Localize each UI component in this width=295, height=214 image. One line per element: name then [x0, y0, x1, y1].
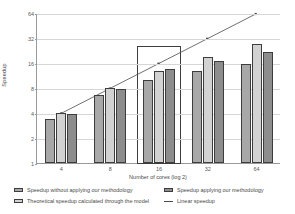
bar[interactable] — [252, 44, 262, 163]
legend-swatch-icon — [14, 199, 23, 203]
bar[interactable] — [203, 57, 213, 163]
bar[interactable] — [94, 95, 104, 163]
legend-row-2: Theoretical speedup calculated through t… — [14, 195, 284, 206]
y-tick-label: 64 — [28, 11, 34, 17]
y-tick-mark — [35, 164, 37, 165]
legend-row-1: Speedup without applying our methodology… — [14, 184, 284, 195]
bar-group: 16 — [141, 14, 177, 163]
plot-area: 124816326448163264 — [36, 14, 280, 164]
bar[interactable] — [56, 113, 66, 163]
bar-group: 4 — [43, 14, 79, 163]
speedup-chart-figure: Speedup 124816326448163264 Number of cor… — [0, 0, 295, 214]
x-tick-label: 16 — [156, 166, 162, 172]
legend-line-icon — [164, 199, 173, 203]
bar[interactable] — [241, 64, 251, 163]
x-tick-label: 64 — [254, 166, 260, 172]
legend-item-3[interactable]: Linear speedup — [164, 198, 215, 204]
bar[interactable] — [105, 88, 115, 163]
legend-label: Linear speedup — [177, 198, 215, 204]
bar[interactable] — [154, 71, 164, 164]
bar[interactable] — [67, 114, 77, 163]
legend-label: Theoretical speedup calculated through t… — [27, 198, 149, 204]
y-tick-label: 2 — [31, 136, 34, 142]
bar[interactable] — [214, 61, 224, 163]
bar[interactable] — [143, 80, 153, 163]
y-tick-label: 1 — [31, 161, 34, 167]
bar[interactable] — [116, 89, 126, 163]
y-tick-label: 4 — [31, 111, 34, 117]
y-tick-mark — [35, 14, 37, 15]
bar[interactable] — [165, 69, 175, 163]
x-tick-label: 32 — [205, 166, 211, 172]
chart-legend: Speedup without applying our methodology… — [14, 184, 284, 206]
legend-item-2[interactable]: Theoretical speedup calculated through t… — [14, 198, 164, 204]
bar[interactable] — [263, 52, 273, 163]
legend-label: Speedup applying our methodology — [177, 187, 264, 193]
x-axis-title: Number of cores (log 2) — [36, 174, 280, 180]
y-tick-label: 16 — [28, 61, 34, 67]
legend-label: Speedup without applying our methodology — [27, 187, 133, 193]
bar[interactable] — [45, 119, 55, 163]
y-tick-mark — [35, 114, 37, 115]
y-tick-mark — [35, 64, 37, 65]
y-tick-label: 8 — [31, 86, 34, 92]
y-tick-mark — [35, 139, 37, 140]
bar-group: 32 — [190, 14, 226, 163]
y-axis-title: Speedup — [1, 63, 7, 86]
x-tick-label: 4 — [60, 166, 63, 172]
y-tick-mark — [35, 89, 37, 90]
bar[interactable] — [192, 71, 202, 164]
bar-group: 64 — [239, 14, 275, 163]
x-tick-label: 8 — [109, 166, 112, 172]
bar-group: 8 — [92, 14, 128, 163]
y-tick-label: 32 — [28, 36, 34, 42]
legend-swatch-icon — [164, 188, 173, 192]
legend-item-0[interactable]: Speedup without applying our methodology — [14, 187, 164, 193]
y-tick-mark — [35, 39, 37, 40]
legend-swatch-icon — [14, 188, 23, 192]
legend-item-1[interactable]: Speedup applying our methodology — [164, 187, 264, 193]
